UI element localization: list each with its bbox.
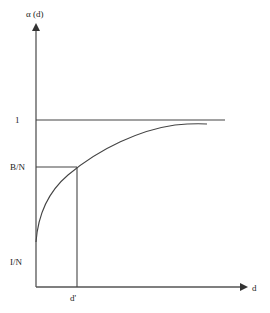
alpha-curve <box>36 124 207 242</box>
x-axis-label: d <box>252 283 257 293</box>
y-axis-label: α (d) <box>26 9 43 19</box>
y-tick-one: 1 <box>15 115 20 125</box>
y-tick-bn: B/N <box>10 162 26 172</box>
y-tick-in: I/N <box>10 257 22 267</box>
x-tick-dprime: d' <box>70 293 77 303</box>
chart-canvas: α (d) d 1 B/N I/N d' <box>0 0 270 313</box>
